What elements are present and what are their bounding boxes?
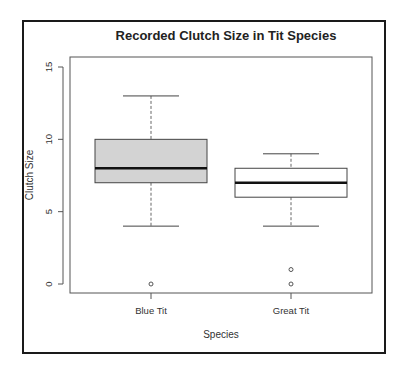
iqr-box [95,139,207,182]
y-tick-label: 10 [43,134,54,145]
x-axis: Blue TitGreat Tit [135,293,309,316]
y-tick-label: 5 [43,209,54,214]
x-tick-label: Blue Tit [135,305,167,316]
y-tick-label: 0 [43,281,54,286]
x-tick-label: Great Tit [273,305,310,316]
outlier-point [289,282,293,286]
y-axis: 051015 [43,62,63,287]
boxplot-chart: Recorded Clutch Size in Tit Species 0510… [0,0,405,374]
box-great-tit [235,154,347,286]
x-axis-label: Species [203,329,239,340]
boxes-group [95,96,347,286]
y-tick-label: 15 [43,62,54,73]
outlier-point [149,282,153,286]
outlier-point [289,268,293,272]
chart-title: Recorded Clutch Size in Tit Species [116,28,337,43]
box-blue-tit [95,96,207,286]
y-axis-label: Clutch Size [24,149,35,200]
